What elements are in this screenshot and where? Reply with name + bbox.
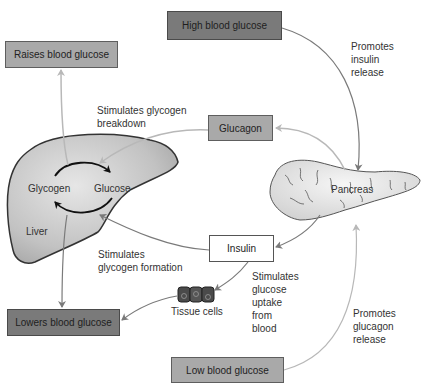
liver-label: Liver: [26, 225, 48, 238]
glucose-label: Glucose: [94, 182, 131, 195]
annotation-glycogen-breakdown: Stimulates glycogen breakdown: [97, 104, 187, 130]
annotation-glucose-uptake: Stimulates glucose uptake from blood: [252, 270, 299, 335]
arrow-insulin-to-tissue: [215, 262, 248, 290]
lowers-blood-glucose-box: Lowers blood glucose: [7, 309, 120, 336]
glucagon-box: Glucagon: [208, 115, 273, 141]
raises-blood-glucose-box: Raises blood glucose: [5, 41, 118, 68]
tissue-cells-label: Tissue cells: [171, 305, 223, 318]
liver-shape: [7, 134, 178, 263]
low-blood-glucose-box: Low blood glucose: [171, 357, 284, 383]
annotation-glycogen-formation: Stimulates glycogen formation: [98, 248, 183, 274]
insulin-box: Insulin: [209, 235, 274, 262]
arrow-high-to-pancreas: [282, 28, 359, 170]
arrow-insulin-to-liver: [100, 215, 209, 250]
annotation-insulin-release: Promotes insulin release: [351, 40, 394, 79]
pancreas-label: Pancreas: [331, 183, 373, 196]
glycogen-label: Glycogen: [28, 182, 70, 195]
tissue-cells-graphic: [178, 287, 214, 302]
annotation-glucagon-release: Promotes glucagon release: [353, 307, 396, 346]
arrow-tissue-to-lowers: [122, 296, 177, 320]
high-blood-glucose-box: High blood glucose: [167, 11, 282, 40]
